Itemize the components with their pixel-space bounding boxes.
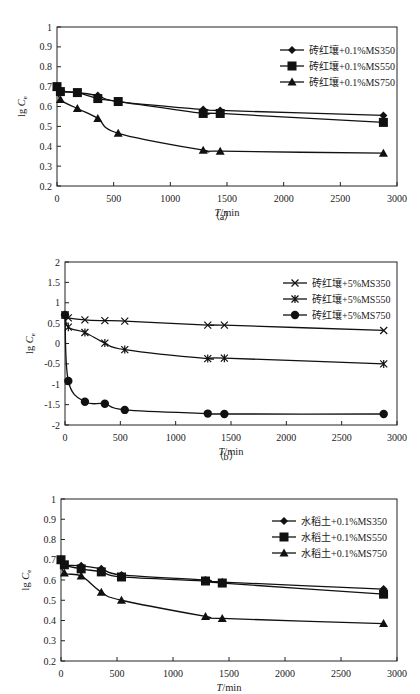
legend-item: 砖红壤+0.1%MS350: [280, 44, 395, 56]
legend-item: 砖红壤+5%MS550: [283, 293, 390, 305]
y-tick-label: 2: [55, 257, 60, 268]
x-tick-label: 500: [110, 668, 125, 679]
data-point-marker: [101, 339, 108, 347]
x-tick-label: 2000: [275, 668, 295, 679]
legend-label: 砖红壤+5%MS750: [312, 309, 390, 321]
x-tick-label: 500: [106, 193, 121, 204]
x-tick-label: 1500: [221, 432, 241, 443]
legend-label: 砖红壤+5%MS350: [312, 277, 390, 289]
y-tick-label: -1: [52, 379, 60, 390]
data-point-marker: [379, 590, 388, 599]
y-tick-label: 0.5: [44, 595, 57, 606]
data-point-marker: [216, 109, 225, 118]
legend-label: 砖红壤+5%MS550: [312, 293, 390, 305]
data-point-marker: [201, 577, 210, 586]
x-tick-label: 2500: [331, 668, 351, 679]
figure-caption: （a）: [210, 211, 234, 222]
x-tick-label: 0: [63, 432, 68, 443]
y-tick-label: 0.8: [40, 61, 53, 72]
x-tick-label: 3000: [387, 668, 407, 679]
data-point-marker: [61, 311, 69, 319]
x-tick-label: 1000: [166, 432, 186, 443]
y-tick-label: 0.4: [40, 141, 53, 152]
data-point-marker: [64, 377, 72, 385]
data-point-marker: [218, 579, 227, 588]
y-tick-label: -1.5: [44, 399, 60, 410]
data-point-marker: [73, 88, 82, 97]
y-tick-label: 0.9: [40, 41, 53, 52]
y-tick-label: 0.2: [40, 181, 53, 192]
series-line: [65, 315, 384, 414]
legend-item: 砖红壤+0.1%MS550: [280, 60, 395, 72]
legend-item: 砖红壤+5%MS750: [283, 309, 390, 321]
x-tick-label: 2500: [332, 432, 352, 443]
legend-label: 砖红壤+0.1%MS750: [309, 76, 395, 88]
data-point-marker: [81, 328, 88, 336]
data-point-marker: [93, 114, 102, 122]
x-tick-label: 1000: [163, 668, 183, 679]
data-point-marker: [97, 588, 106, 596]
data-point-marker: [114, 97, 123, 106]
data-point-marker: [73, 104, 82, 112]
x-tick-label: 2500: [330, 193, 350, 204]
series-line: [61, 560, 384, 594]
y-tick-label: 0.2: [44, 656, 57, 667]
y-tick-label: 0.5: [40, 121, 53, 132]
legend-marker-icon: [288, 46, 296, 54]
y-tick-label: 0: [55, 338, 60, 349]
series-circle: [61, 311, 388, 418]
x-tick-label: 2000: [274, 193, 294, 204]
y-tick-label: 0.6: [40, 101, 53, 112]
data-point-marker: [379, 118, 388, 127]
data-point-marker: [81, 398, 89, 406]
y-tick-label: 1: [55, 297, 60, 308]
legend-marker-icon: [288, 62, 297, 71]
data-point-marker: [380, 410, 388, 418]
y-axis-label: lg Ce: [16, 96, 29, 117]
y-axis-label: lg Ce: [24, 333, 37, 354]
data-point-marker: [204, 409, 212, 417]
legend-item: 砖红壤+5%MS350: [283, 277, 390, 289]
y-tick-label: -0.5: [44, 358, 60, 369]
y-tick-label: 1: [47, 22, 52, 33]
y-tick-label: -2: [52, 420, 60, 431]
y-tick-label: 0.5: [48, 318, 61, 329]
y-axis-label: lg Ce: [20, 570, 33, 591]
data-point-marker: [101, 400, 109, 408]
y-tick-label: 0.7: [44, 554, 57, 565]
data-point-marker: [121, 406, 129, 414]
legend-label: 砖红壤+0.1%MS550: [309, 60, 395, 72]
y-tick-label: 1: [51, 494, 56, 505]
y-tick-label: 0.6: [44, 575, 57, 586]
legend-item: 砖红壤+0.1%MS750: [280, 76, 395, 88]
x-tick-label: 0: [55, 193, 60, 204]
x-tick-label: 1500: [217, 193, 237, 204]
data-point-marker: [117, 572, 126, 581]
y-tick-label: 0.3: [40, 161, 53, 172]
y-tick-label: 0.9: [44, 514, 57, 525]
legend-item: 水稻土+0.1%MS350: [272, 515, 387, 527]
y-tick-label: 1.5: [48, 277, 61, 288]
chart-c: 0.20.30.40.50.60.70.80.91050010001500200…: [20, 494, 407, 694]
x-axis-label: T/min: [216, 682, 242, 693]
figure-canvas: 0.20.30.40.50.60.70.80.91050010001500200…: [0, 0, 420, 694]
legend-label: 水稻土+0.1%MS350: [301, 515, 387, 527]
y-tick-label: 0.8: [44, 534, 57, 545]
x-tick-label: 1500: [219, 668, 239, 679]
series-square: [53, 82, 388, 127]
chart-a: 0.20.30.40.50.60.70.80.91050010001500200…: [16, 22, 407, 223]
x-tick-label: 3000: [387, 432, 407, 443]
x-tick-label: 2000: [276, 432, 296, 443]
data-point-marker: [93, 94, 102, 103]
legend-marker-icon: [280, 533, 289, 542]
y-tick-label: 0.3: [44, 635, 57, 646]
x-tick-label: 3000: [387, 193, 407, 204]
series-line: [61, 560, 384, 624]
legend-item: 水稻土+0.1%MS550: [272, 531, 387, 543]
y-tick-label: 0.4: [44, 615, 57, 626]
data-point-marker: [220, 410, 228, 418]
legend-item: 水稻土+0.1%MS750: [272, 547, 387, 559]
data-point-marker: [199, 109, 208, 118]
data-point-marker: [97, 567, 106, 576]
x-tick-label: 500: [113, 432, 128, 443]
